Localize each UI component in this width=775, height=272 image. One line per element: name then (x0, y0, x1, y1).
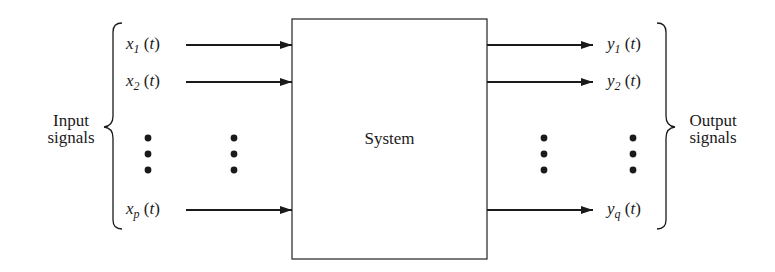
input-label-line1: Input (42, 112, 100, 129)
system-label: System (364, 129, 414, 149)
system-label-container: System (292, 19, 487, 259)
input-brace-icon (104, 23, 122, 229)
input-label-ellipsis-icon (145, 135, 152, 174)
output-brace-icon (657, 23, 675, 229)
input-signal-2: x2 (t) (126, 72, 160, 95)
output-signals-label: Output signals (680, 112, 746, 146)
input-signal-p: xp (t) (126, 200, 160, 223)
output-label-line2: signals (680, 129, 746, 146)
output-label-ellipsis-icon (630, 135, 637, 174)
output-signal-1: y1 (t) (607, 35, 641, 58)
output-label-line1: Output (680, 112, 746, 129)
output-signal-2: y2 (t) (607, 72, 641, 95)
input-signal-1: x1 (t) (126, 35, 160, 58)
input-signals-label: Input signals (42, 112, 100, 146)
input-label-line2: signals (42, 129, 100, 146)
output-signal-q: yq (t) (607, 200, 641, 223)
output-arrows (487, 45, 593, 210)
output-arrow-ellipsis-icon (541, 135, 548, 174)
input-arrow-ellipsis-icon (231, 135, 238, 174)
input-arrows (186, 45, 292, 210)
